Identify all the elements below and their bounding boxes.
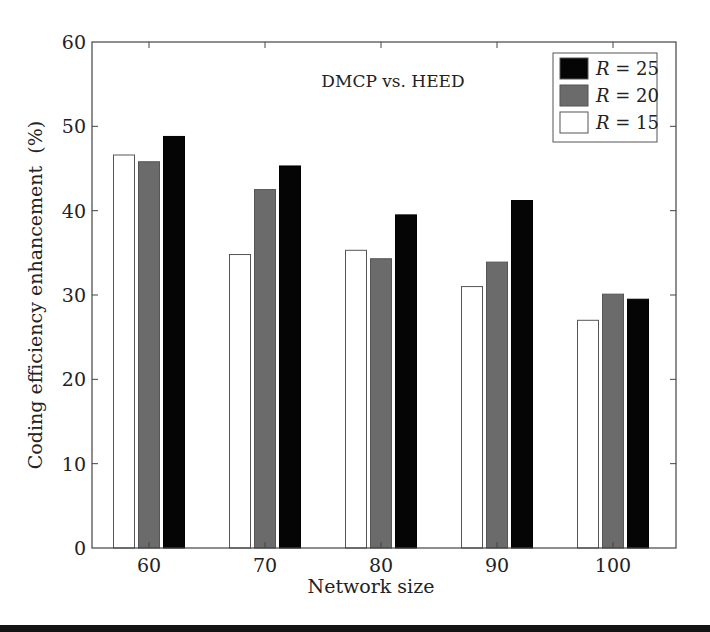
x-axis-label: Network size (308, 575, 435, 597)
x-tick-label: 60 (137, 554, 161, 576)
legend-swatch-icon (560, 58, 588, 79)
bar-r15-80 (346, 250, 367, 548)
bar-r15-60 (114, 155, 135, 548)
bottom-border (0, 625, 710, 632)
chart-title: DMCP vs. HEED (321, 71, 464, 91)
bar-chart: 0102030405060 60708090100 DMCP vs. HEED … (0, 0, 710, 632)
legend-swatch-icon (560, 85, 588, 106)
bar-r25-100 (628, 299, 649, 548)
x-tick-label: 90 (485, 554, 509, 576)
bar-r20-90 (487, 262, 508, 548)
y-tick-label: 60 (62, 31, 86, 53)
y-tick-label: 50 (62, 115, 86, 137)
bar-r20-80 (371, 259, 392, 548)
bar-r15-70 (230, 255, 251, 548)
y-tick-label: 30 (62, 284, 86, 306)
legend-label: R = 15 (595, 112, 659, 133)
legend-swatch-icon (560, 112, 588, 133)
legend-label: R = 25 (595, 58, 659, 79)
y-tick-label: 20 (62, 368, 86, 390)
y-tick-label: 0 (74, 537, 86, 559)
legend: R = 25R = 20R = 15 (553, 53, 659, 142)
x-tick-label: 100 (595, 554, 631, 576)
y-tick-label: 40 (62, 200, 86, 222)
bar-r15-100 (578, 320, 599, 548)
bar-r25-80 (396, 215, 417, 548)
y-tick-labels: 0102030405060 (62, 31, 86, 559)
x-tick-label: 70 (253, 554, 277, 576)
bar-r25-60 (164, 136, 185, 548)
legend-label: R = 20 (595, 85, 659, 106)
bar-r20-60 (139, 162, 160, 548)
x-tick-label: 80 (369, 554, 393, 576)
y-tick-label: 10 (62, 453, 86, 475)
bar-r20-70 (255, 190, 276, 548)
y-axis-label: Coding efficiency enhancement (%) (24, 121, 46, 469)
x-tick-labels: 60708090100 (137, 554, 631, 576)
bar-r15-90 (462, 287, 483, 548)
bar-r25-70 (280, 166, 301, 548)
bar-r20-100 (603, 294, 624, 548)
bar-r25-90 (512, 201, 533, 548)
bars-layer (114, 136, 649, 548)
